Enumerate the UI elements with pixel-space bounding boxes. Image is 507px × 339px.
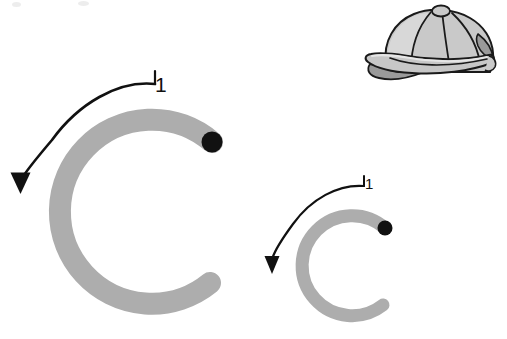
cap-top-button bbox=[432, 6, 450, 17]
baseball-cap-illustration bbox=[0, 0, 507, 339]
worksheet-page: 1 1 bbox=[0, 0, 507, 339]
baseball-cap-icon bbox=[366, 6, 496, 80]
